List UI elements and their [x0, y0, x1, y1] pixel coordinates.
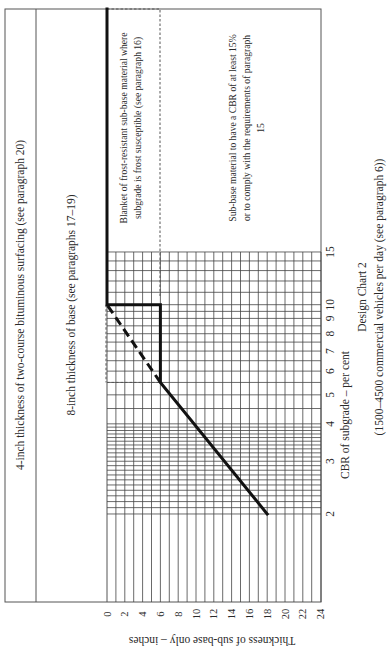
thickness-tick-label: 6: [155, 611, 166, 616]
thickness-tick-label: 10: [191, 609, 202, 620]
subbase-note-line3: 15: [255, 123, 266, 133]
cbr-tick-label: 2: [324, 511, 336, 517]
cbr-tick-label: 3: [324, 458, 336, 464]
thickness-tick-label: 8: [173, 611, 184, 616]
thickness-tick-label: 20: [280, 609, 291, 620]
thickness-tick-label: 2: [119, 611, 130, 616]
thickness-tick-label: 22: [297, 609, 308, 620]
cbr-tick-label: 10: [324, 299, 336, 311]
cbr-tick-label: 5: [324, 392, 336, 398]
chart-frame: [5, 9, 321, 602]
cbr-axis-ticks: 234567891015: [324, 246, 336, 517]
cbr-tick-label: 9: [324, 315, 336, 321]
thickness-axis-ticks: 024681012141618202224: [102, 608, 327, 619]
thickness-tick-label: 18: [262, 609, 273, 620]
thickness-tick-label: 12: [208, 609, 219, 620]
thickness-tick-label: 24: [315, 608, 326, 619]
thickness-tick-label: 16: [244, 609, 255, 620]
cbr-tick-label: 15: [324, 246, 336, 258]
chart-title: Design Chart 2: [356, 262, 369, 332]
surfacing-layer-label: 4-inch thickness of two-course bituminou…: [14, 140, 27, 470]
cbr-tick-label: 8: [324, 331, 336, 337]
thickness-tick-label: 14: [226, 608, 237, 619]
thickness-tick-label: 0: [102, 611, 113, 616]
cbr-tick-label: 6: [324, 368, 336, 374]
cbr-axis-label: CBR of subgrade – per cent: [339, 350, 352, 479]
subbase-note-line2: or to comply with the requirements of pa…: [241, 35, 252, 221]
thickness-axis-label: Thickness of sub-base only – inches: [128, 634, 295, 647]
cbr-tick-label: 7: [324, 348, 336, 354]
base-layer-label: 8-inch thickness of base (see paragraphs…: [65, 194, 78, 415]
chart-subtitle: (1500–4500 commercial vehicles per day (…: [373, 158, 386, 435]
subbase-note-line1: Sub-base material to have a CBR of at le…: [227, 34, 238, 221]
frost-note-line2: subgrade is frost susceptible (see parag…: [132, 37, 144, 219]
design-chart: 4-inch thickness of two-course bituminou…: [0, 0, 389, 653]
thickness-tick-label: 4: [137, 611, 148, 617]
cbr-tick-label: 4: [324, 421, 336, 427]
frost-note-line1: Blanket of frost-resistant sub-base mate…: [118, 32, 129, 223]
